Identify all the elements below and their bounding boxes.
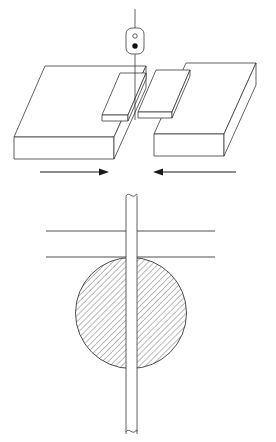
pin-body-mask xyxy=(126,196,137,434)
tool-indicator-hollow-circle-icon xyxy=(133,34,137,38)
technical-diagram xyxy=(0,0,276,442)
arrow-right-head-icon xyxy=(153,169,163,176)
diagram-canvas xyxy=(0,0,276,442)
arrow-left-head-icon xyxy=(99,169,109,176)
section-pin xyxy=(126,194,137,434)
tool-indicator-filled-dot-icon xyxy=(132,43,137,48)
section-view xyxy=(46,194,215,434)
arrow-left xyxy=(40,169,109,176)
left-plate-front-face xyxy=(14,137,114,159)
left-sheet-front-face xyxy=(102,115,128,121)
right-plate-front-face xyxy=(154,134,224,156)
arrow-right xyxy=(153,169,236,176)
isometric-view xyxy=(14,9,256,175)
pin-break-symbol-top-icon xyxy=(126,194,137,196)
right-sheet-front-face xyxy=(138,112,172,118)
tool-body[interactable] xyxy=(126,28,144,54)
